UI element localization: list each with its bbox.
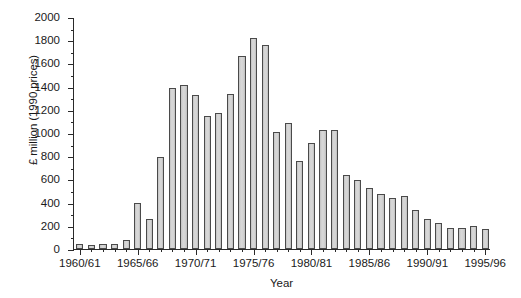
bar bbox=[180, 85, 187, 249]
bar bbox=[331, 130, 338, 249]
x-tick-label: 1995/96 bbox=[464, 257, 506, 269]
x-tick-minor bbox=[103, 249, 104, 252]
bar bbox=[250, 38, 257, 249]
x-tick-label: 1970/71 bbox=[175, 257, 217, 269]
y-tick-label: 1400 bbox=[20, 81, 60, 93]
bar bbox=[412, 210, 419, 249]
bar bbox=[123, 240, 130, 249]
x-tick-minor bbox=[474, 249, 475, 252]
bar bbox=[458, 228, 465, 249]
bar bbox=[273, 132, 280, 249]
bar bbox=[204, 116, 211, 249]
bar-series bbox=[74, 18, 490, 249]
x-tick-minor bbox=[416, 249, 417, 252]
bar bbox=[389, 198, 396, 249]
x-tick-major bbox=[196, 249, 197, 255]
x-tick-minor bbox=[172, 249, 173, 252]
x-tick-label: 1985/86 bbox=[349, 257, 391, 269]
x-tick-minor bbox=[91, 249, 92, 252]
bar bbox=[227, 94, 234, 249]
bar bbox=[366, 188, 373, 249]
x-tick-major bbox=[485, 249, 486, 255]
x-tick-minor bbox=[439, 249, 440, 252]
bar bbox=[88, 245, 95, 249]
x-tick-minor bbox=[288, 249, 289, 252]
x-tick-minor bbox=[346, 249, 347, 252]
x-tick-minor bbox=[462, 249, 463, 252]
y-tick-label: 2000 bbox=[20, 11, 60, 23]
x-axis-title: Year bbox=[73, 277, 490, 289]
x-tick-label: 1980/81 bbox=[291, 257, 333, 269]
bar bbox=[308, 143, 315, 249]
bar bbox=[377, 194, 384, 249]
bar-chart-figure: £ million (1990 prices) 0200400600800100… bbox=[0, 0, 521, 298]
x-tick-minor bbox=[450, 249, 451, 252]
x-tick-minor bbox=[404, 249, 405, 252]
y-tick-label: 200 bbox=[20, 220, 60, 232]
bar bbox=[192, 95, 199, 249]
y-tick-label: 0 bbox=[20, 243, 60, 255]
bar bbox=[470, 226, 477, 249]
x-tick-label: 1975/76 bbox=[233, 257, 275, 269]
x-tick-major bbox=[311, 249, 312, 255]
y-tick-label: 1800 bbox=[20, 34, 60, 46]
x-tick-major bbox=[369, 249, 370, 255]
y-tick-major: 0 bbox=[68, 250, 74, 251]
bar bbox=[401, 196, 408, 249]
y-tick-label: 600 bbox=[20, 173, 60, 185]
x-tick-minor bbox=[149, 249, 150, 252]
x-tick-minor bbox=[126, 249, 127, 252]
x-tick-minor bbox=[335, 249, 336, 252]
x-tick-label: 1965/66 bbox=[117, 257, 159, 269]
x-tick-minor bbox=[277, 249, 278, 252]
bar bbox=[76, 244, 83, 249]
bar bbox=[215, 113, 222, 249]
x-tick-major bbox=[138, 249, 139, 255]
bar bbox=[157, 157, 164, 249]
bar bbox=[285, 123, 292, 249]
bar bbox=[262, 45, 269, 249]
bar bbox=[111, 244, 118, 249]
x-tick-minor bbox=[219, 249, 220, 252]
bar bbox=[482, 229, 489, 249]
x-tick-minor bbox=[381, 249, 382, 252]
y-tick-label: 800 bbox=[20, 150, 60, 162]
x-tick-major bbox=[80, 249, 81, 255]
x-tick-major bbox=[254, 249, 255, 255]
y-tick-label: 400 bbox=[20, 197, 60, 209]
bar bbox=[319, 130, 326, 249]
x-tick-minor bbox=[161, 249, 162, 252]
x-tick-minor bbox=[300, 249, 301, 252]
x-tick-major bbox=[427, 249, 428, 255]
x-tick-minor bbox=[323, 249, 324, 252]
plot-area: 0200400600800100012001400160018002000 19… bbox=[73, 18, 490, 250]
bar bbox=[296, 161, 303, 249]
bar bbox=[435, 223, 442, 249]
x-tick-minor bbox=[184, 249, 185, 252]
x-tick-label: 1960/61 bbox=[59, 257, 101, 269]
x-tick-minor bbox=[393, 249, 394, 252]
bar bbox=[424, 219, 431, 249]
y-tick-label: 1200 bbox=[20, 104, 60, 116]
x-tick-label: 1990/91 bbox=[406, 257, 448, 269]
y-tick-label: 1600 bbox=[20, 57, 60, 69]
x-tick-minor bbox=[207, 249, 208, 252]
x-tick-minor bbox=[265, 249, 266, 252]
bar bbox=[447, 228, 454, 249]
bar bbox=[343, 175, 350, 249]
bar bbox=[99, 244, 106, 249]
bar bbox=[146, 219, 153, 249]
x-tick-minor bbox=[358, 249, 359, 252]
x-tick-minor bbox=[230, 249, 231, 252]
bar bbox=[238, 56, 245, 249]
x-tick-minor bbox=[115, 249, 116, 252]
y-tick-label: 1000 bbox=[20, 127, 60, 139]
bar bbox=[169, 88, 176, 249]
bar bbox=[354, 180, 361, 249]
bar bbox=[134, 203, 141, 249]
x-tick-minor bbox=[242, 249, 243, 252]
